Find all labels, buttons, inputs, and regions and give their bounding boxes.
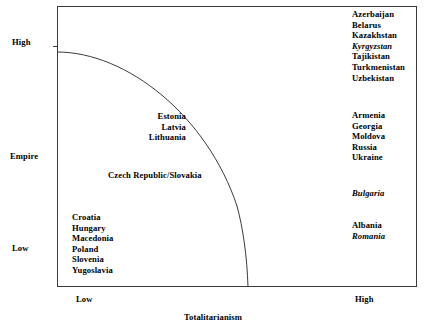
country-label: Hungary (72, 223, 113, 234)
y-axis-tick-low: Low (12, 243, 29, 253)
y-axis-tick-high: High (12, 37, 31, 47)
empire-totalitarianism-chart: Azerbaijan Belarus Kazakhstan Kyrgyzstan… (0, 0, 426, 323)
country-label: Russia (352, 142, 385, 153)
country-label: Uzbekistan (352, 73, 405, 84)
country-label: Estonia (123, 111, 186, 122)
country-label: Slovenia (72, 254, 113, 265)
country-label: Czech Republic/Slovakia (108, 170, 202, 181)
country-label: Albania (352, 220, 385, 231)
x-axis-tick-high: High (355, 294, 374, 304)
country-group-bulgaria: Bulgaria (352, 188, 384, 199)
country-label: Ukraine (352, 152, 385, 163)
country-label: Georgia (352, 121, 385, 132)
country-group-baltics: Estonia Latvia Lithuania (123, 111, 186, 143)
country-label: Kyrgyzstan (352, 41, 405, 52)
x-axis-tick-low: Low (76, 294, 93, 304)
country-label: Poland (72, 244, 113, 255)
country-label: Tajikistan (352, 51, 405, 62)
country-label: Romania (352, 231, 385, 242)
country-label: Yugoslavia (72, 265, 113, 276)
country-label: Lithuania (123, 132, 186, 143)
country-group-middle-right: Armenia Georgia Moldova Russia Ukraine (352, 110, 385, 163)
country-label: Armenia (352, 110, 385, 121)
country-label: Turkmenistan (352, 62, 405, 73)
country-group-czechoslovakia: Czech Republic/Slovakia (108, 170, 202, 181)
country-group-top-right: Azerbaijan Belarus Kazakhstan Kyrgyzstan… (352, 9, 405, 83)
country-label: Azerbaijan (352, 9, 405, 20)
country-label: Macedonia (72, 233, 113, 244)
y-axis-title: Empire (10, 151, 38, 161)
country-label: Bulgaria (352, 188, 384, 199)
y-tick-high (53, 46, 57, 47)
country-group-bottom-right: Albania Romania (352, 220, 385, 241)
country-label: Belarus (352, 20, 405, 31)
country-group-bottom-left: Croatia Hungary Macedonia Poland Sloveni… (72, 212, 113, 276)
country-label: Latvia (123, 122, 186, 133)
country-label: Moldova (352, 131, 385, 142)
country-label: Croatia (72, 212, 113, 223)
country-label: Kazakhstan (352, 30, 405, 41)
x-axis-title: Totalitarianism (0, 312, 426, 322)
